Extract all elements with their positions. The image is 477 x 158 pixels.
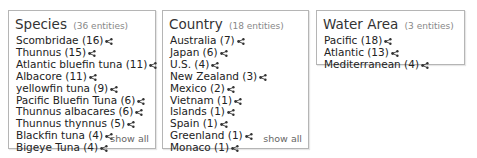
share-network-icon[interactable] [227, 109, 235, 116]
share-network-icon[interactable] [135, 109, 143, 116]
share-network-icon[interactable] [100, 145, 108, 152]
share-network-icon[interactable] [245, 133, 253, 140]
facet-item-label[interactable]: Atlantic (13) [324, 46, 389, 58]
facet-title-text: Species [15, 16, 67, 32]
facet-item-label[interactable]: Vietnam (1) [170, 94, 232, 106]
facet-item-label[interactable]: Albacore (11) [16, 70, 87, 82]
share-network-icon[interactable] [220, 121, 228, 128]
facet-item-label[interactable]: Japan (6) [170, 46, 218, 58]
share-network-icon[interactable] [227, 86, 235, 93]
facet-item-label[interactable]: Spain (1) [170, 117, 218, 129]
facet-item[interactable]: Mediterranean (4) [324, 59, 458, 71]
facet-item-label[interactable]: yellowfin tuna (9) [16, 82, 108, 94]
facet-item-label[interactable]: Islands (1) [170, 105, 225, 117]
show-all-link[interactable]: show all [263, 133, 302, 144]
facet-item-label[interactable]: Scombridae (16) [16, 34, 103, 46]
facet-item-label[interactable]: Mexico (2) [170, 82, 225, 94]
facet-item-label[interactable]: Pacific (18) [324, 34, 382, 46]
facet-item-label[interactable]: Thunnus albacares (6) [16, 105, 133, 117]
share-network-icon[interactable] [234, 98, 242, 105]
facet-item-label[interactable]: Bigeye Tuna (4) [16, 141, 98, 153]
share-network-icon[interactable] [391, 50, 399, 57]
entity-count: (36 entities) [73, 21, 128, 31]
share-network-icon[interactable] [237, 38, 245, 45]
facet-title-text: Country [169, 16, 223, 32]
species-facet-panel: Species (36 entities) Scombridae (16) Th… [8, 10, 156, 149]
facet-item-label[interactable]: Thunnus thynnus (5) [16, 117, 125, 129]
share-network-icon[interactable] [211, 62, 219, 69]
share-network-icon[interactable] [384, 38, 392, 45]
facet-title-text: Water Area [323, 16, 398, 32]
facet-item-label[interactable]: Atlantic bluefin tuna (11) [16, 58, 147, 70]
country-facet-panel: Country (18 entities) Australia (7) Japa… [162, 10, 309, 149]
facet-item-label[interactable]: Pacific Bluefin Tuna (6) [16, 94, 135, 106]
share-network-icon[interactable] [88, 50, 96, 57]
share-network-icon[interactable] [137, 98, 145, 105]
show-all-link[interactable]: show all [110, 133, 149, 144]
share-network-icon[interactable] [259, 74, 267, 81]
species-facet-title: Species (36 entities) [15, 16, 149, 34]
share-network-icon[interactable] [220, 50, 228, 57]
water-area-facet-title: Water Area (3 entities) [323, 16, 458, 34]
facet-item-label[interactable]: Greenland (1) [170, 129, 243, 141]
water-area-list: Pacific (18) Atlantic (13) Mediterranean… [324, 35, 458, 71]
facet-item-label[interactable]: Mediterranean (4) [324, 58, 419, 70]
share-network-icon[interactable] [127, 121, 135, 128]
share-network-icon[interactable] [89, 74, 97, 81]
share-network-icon[interactable] [149, 62, 157, 69]
facet-item-label[interactable]: Thunnus (15) [16, 46, 86, 58]
facet-item-label[interactable]: Australia (7) [170, 34, 235, 46]
share-network-icon[interactable] [105, 38, 113, 45]
share-network-icon[interactable] [110, 86, 118, 93]
entity-count: (18 entities) [229, 21, 284, 31]
facet-item-label[interactable]: Monaco (1) [170, 141, 229, 153]
share-network-icon[interactable] [231, 145, 239, 152]
entity-count: (3 entities) [405, 21, 454, 31]
facet-item-label[interactable]: Blackfin tuna (4) [16, 129, 103, 141]
share-network-icon[interactable] [421, 62, 429, 69]
facet-item-label[interactable]: U.S. (4) [170, 58, 209, 70]
country-facet-title: Country (18 entities) [169, 16, 302, 34]
facet-item-label[interactable]: New Zealand (3) [170, 70, 257, 82]
water-area-facet-panel: Water Area (3 entities) Pacific (18) Atl… [316, 10, 465, 65]
